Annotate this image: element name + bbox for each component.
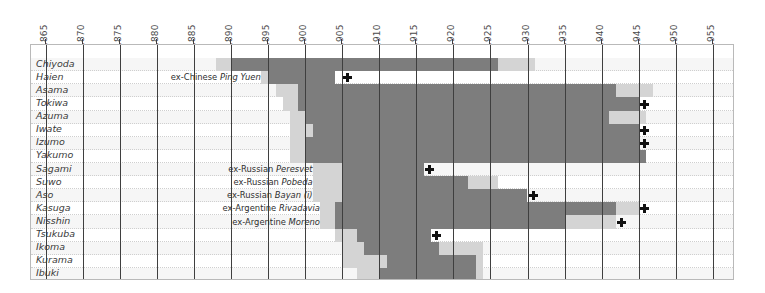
gridline-1940 [602, 45, 603, 279]
fate-marker-tokiwa [640, 100, 649, 109]
bar-segment [313, 176, 343, 189]
bar-segment [283, 97, 298, 110]
bar-segment [565, 215, 617, 228]
plot-area: ex-Chinese Ping Yuenex-Russian Peresvete… [30, 44, 734, 280]
gridline-1930 [528, 45, 529, 279]
bar-segment [387, 255, 476, 268]
bar-segment [439, 242, 483, 255]
fate-marker-tsukuba [432, 231, 441, 240]
annotation-suwo: ex-Russian Pobeda [31, 178, 313, 186]
fate-marker-nisshin [617, 218, 626, 227]
bar-segment [335, 229, 357, 242]
bar-segment [320, 202, 335, 215]
year-tick-1920 [452, 39, 453, 44]
annotation-sagami: ex-Russian Peresvet [31, 165, 313, 173]
bar-segment [476, 255, 483, 268]
gridline-1900 [305, 45, 306, 279]
fate-marker-sagami [425, 165, 434, 174]
row-label-iwate: Iwate [36, 124, 62, 134]
row-label-ikoma: Ikoma [36, 242, 65, 252]
row-label-ibuki: Ibuki [36, 268, 59, 278]
bar-segment [609, 111, 646, 124]
bar-segment [216, 58, 231, 71]
gridline-1945 [639, 45, 640, 279]
bar-segment [342, 163, 424, 176]
bar-segment [305, 150, 646, 163]
bar-segment [616, 84, 653, 97]
gridline-1955 [713, 45, 714, 279]
bar-segment [357, 268, 379, 280]
annotation-aso: ex-Russian Bayan (i) [31, 191, 313, 199]
year-tick-1945 [638, 39, 639, 44]
bar-segment [498, 58, 535, 71]
year-tick-1885 [193, 39, 194, 44]
year-tick-1930 [527, 39, 528, 44]
row-label-kurama: Kurama [36, 255, 73, 265]
year-tick-1950 [675, 39, 676, 44]
bar-azuma [31, 111, 733, 124]
bar-chiyoda [31, 58, 733, 71]
bar-segment [335, 215, 565, 228]
bar-segment [357, 229, 431, 242]
bar-segment [268, 71, 335, 84]
row-label-asama: Asama [36, 85, 68, 95]
year-tick-1875 [119, 39, 120, 44]
year-tick-1865 [45, 39, 46, 44]
bar-segment [231, 58, 498, 71]
row-label-tsukuba: Tsukuba [36, 229, 75, 239]
bar-segment [476, 268, 483, 280]
year-tick-1925 [489, 39, 490, 44]
bar-yakumo [31, 150, 733, 163]
row-label-chiyoda: Chiyoda [36, 59, 75, 69]
gridline-1910 [379, 45, 380, 279]
bar-segment [305, 111, 609, 124]
timeline-chart: 1865187018751880188518901895190019051910… [0, 0, 765, 293]
bar-segment [305, 137, 638, 150]
bar-iwate [31, 124, 733, 137]
gridline-1950 [676, 45, 677, 279]
bar-asama [31, 84, 733, 97]
year-tick-1955 [712, 39, 713, 44]
row-label-izumo: Izumo [36, 137, 65, 147]
bar-segment [313, 124, 639, 137]
gridline-1925 [490, 45, 491, 279]
annotation-haien: ex-Chinese Ping Yuen [31, 73, 261, 81]
bar-segment [320, 215, 335, 228]
fate-marker-iwate [640, 126, 649, 135]
fate-marker-haien [343, 73, 352, 82]
row-label-tokiwa: Tokiwa [36, 98, 68, 108]
bar-segment [342, 176, 468, 189]
bar-segment [342, 242, 364, 255]
year-tick-1905 [341, 39, 342, 44]
year-tick-1900 [304, 39, 305, 44]
bar-tsukuba [31, 229, 733, 242]
bar-segment [290, 150, 305, 163]
row-label-yakumo: Yakumo [36, 150, 73, 160]
bar-tokiwa [31, 97, 733, 110]
bar-segment [313, 189, 343, 202]
year-tick-1915 [415, 39, 416, 44]
bar-segment [298, 97, 639, 110]
annotation-kasuga: ex-Argentine Rivadavia [31, 204, 320, 212]
bar-ikoma [31, 242, 733, 255]
bar-segment [290, 124, 312, 137]
bar-segment [335, 202, 617, 215]
bar-segment [290, 137, 305, 150]
bar-segment [276, 84, 298, 97]
bar-segment [468, 176, 498, 189]
bar-segment [261, 71, 268, 84]
gridline-1915 [416, 45, 417, 279]
year-tick-1910 [378, 39, 379, 44]
gridline-1935 [565, 45, 566, 279]
fate-marker-kasuga [640, 204, 649, 213]
year-tick-1890 [230, 39, 231, 44]
bar-segment [616, 202, 638, 215]
bar-ibuki [31, 268, 733, 280]
annotation-nisshin: ex-Argentine Moreno [31, 218, 320, 226]
bar-segment [290, 111, 305, 124]
year-tick-1895 [267, 39, 268, 44]
year-tick-1880 [156, 39, 157, 44]
gridline-1920 [453, 45, 454, 279]
gridline-1895 [268, 45, 269, 279]
fate-marker-izumo [640, 139, 649, 148]
